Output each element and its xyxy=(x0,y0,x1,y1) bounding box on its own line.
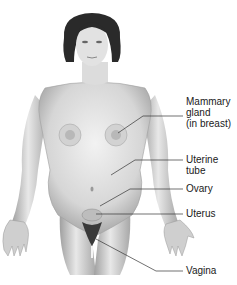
label-ovary: Ovary xyxy=(186,183,213,194)
label-uterus: Uterus xyxy=(186,208,215,219)
label-line: Vagina xyxy=(186,265,216,276)
label-line: Ovary xyxy=(186,183,213,194)
label-uterine-tube: Uterine tube xyxy=(186,154,218,176)
label-line: tube xyxy=(186,165,218,176)
label-line: Mammary xyxy=(186,96,231,107)
label-vagina: Vagina xyxy=(186,265,216,276)
female-body-illustration xyxy=(0,0,237,285)
label-mammary-gland: Mammary gland (in breast) xyxy=(186,96,231,129)
label-line: Uterus xyxy=(186,208,215,219)
anatomy-figure: Mammary gland (in breast) Uterine tube O… xyxy=(0,0,237,285)
label-line: (in breast) xyxy=(186,118,231,129)
label-line: gland xyxy=(186,107,231,118)
label-line: Uterine xyxy=(186,154,218,165)
